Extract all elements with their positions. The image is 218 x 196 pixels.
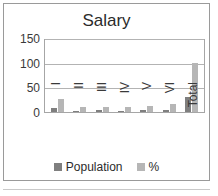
legend-swatch-icon: [54, 163, 62, 171]
x-axis-label-cell: VI: [159, 80, 182, 126]
y-axis-tick-label: 150: [20, 33, 40, 45]
x-axis-label-cell: III: [90, 80, 113, 126]
legend-label: %: [149, 160, 160, 174]
legend-item[interactable]: %: [137, 160, 160, 174]
x-axis-label-cell: I: [45, 80, 68, 126]
x-axis-tick-label: Total: [187, 82, 199, 107]
x-axis-label-cell: Total: [181, 80, 204, 126]
x-axis-label-cell: IV: [113, 80, 136, 126]
y-axis-tick-label: 50: [27, 82, 40, 94]
x-axis-tick-label: VI: [164, 82, 176, 93]
bottom-divider: [3, 189, 210, 190]
y-axis-tick-label: 0: [33, 107, 40, 119]
x-axis-tick-label: III: [96, 82, 108, 92]
legend-swatch-icon: [137, 163, 145, 171]
x-axis-label-cell: V: [136, 80, 159, 126]
x-axis-category-labels: IIIIIIIVVVITotal: [44, 80, 205, 126]
x-axis-label-cell: II: [68, 80, 91, 126]
x-axis-tick-label: IV: [119, 82, 131, 93]
x-axis-tick-label: II: [73, 82, 85, 89]
legend-item[interactable]: Population: [54, 160, 123, 174]
chart-legend: Population%: [4, 160, 209, 174]
legend-label: Population: [66, 160, 123, 174]
chart-title: Salary: [4, 11, 209, 31]
y-axis: 150100500: [4, 39, 42, 113]
x-axis-tick-label: V: [141, 82, 153, 90]
y-axis-tick-label: 100: [20, 58, 40, 70]
chart-container: Salary 150100500 IIIIIIIVVVITotal Popula…: [3, 3, 210, 181]
x-axis-tick-label: I: [50, 82, 62, 85]
